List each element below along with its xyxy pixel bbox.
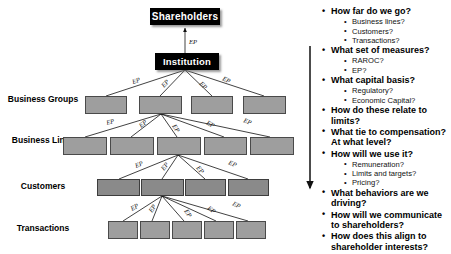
edge-bg-bl-1 [85,114,161,137]
edge-label: EP [128,202,139,212]
edge-label: EP [227,158,238,168]
questions-panel: How far do we go? Business lines? Custom… [300,0,451,254]
node-business-line[interactable] [204,137,247,155]
edge-bg-bl-2 [131,114,161,137]
node-transaction[interactable] [172,221,202,239]
edge-label: EP [242,116,253,126]
node-business-group[interactable] [85,96,127,114]
edge-label: EP [206,204,217,215]
list-item[interactable]: Transactions? [322,36,451,45]
list-item[interactable]: What tie to compensation?At what level? [322,127,451,148]
list-item[interactable]: EP? [322,66,451,75]
row-label-transactions: Transactions [0,223,86,234]
edge-label: EP [183,207,194,218]
edge-label: EP [159,161,170,172]
node-transaction[interactable] [140,221,170,239]
edge-label: EP [159,78,170,89]
list-item[interactable]: How will we communicate to shareholders? [322,210,451,231]
edge-inst-bg-3 [185,70,212,96]
list-item[interactable]: Business lines? [322,17,451,26]
list-item[interactable]: What capital basis? [322,75,451,86]
edge-label: EP [171,122,182,133]
edge-bl-cu-1 [119,155,178,179]
node-customer[interactable] [228,179,269,196]
list-item[interactable]: How will we use it? [322,149,451,160]
list-item[interactable]: Pricing? [322,178,451,187]
list-item[interactable]: What set of measures? [322,45,451,56]
edge-label: EP [205,118,216,129]
list-item[interactable]: Customers? [322,27,451,36]
edge-label: EP [231,199,242,209]
questions-list: How far do we go? Business lines? Custom… [322,6,451,253]
edge-label: EP [198,79,209,90]
node-business-line[interactable] [63,137,107,155]
list-item[interactable]: Limits and targets? [322,169,451,178]
connector-lines: EP EP EP EP EP EP EP EP EP EP EP EP EP E… [0,0,300,254]
node-institution[interactable]: Institution [155,53,219,70]
list-item[interactable]: Remuneration? [322,160,451,169]
edge-label: EP [133,160,144,170]
edge-cu-tr-3 [162,196,184,221]
slide-canvas: EP EP EP EP EP EP EP EP EP EP EP EP EP E… [0,0,451,254]
node-transaction[interactable] [108,221,138,239]
node-customer[interactable] [141,179,184,196]
row-label-text: Transactions [17,223,69,233]
list-item[interactable]: How do these relate to limits? [322,105,451,126]
list-item[interactable]: Economic Capital? [322,96,451,105]
node-business-group[interactable] [191,96,233,114]
node-customer[interactable] [185,179,226,196]
edge-inst-bg-1 [106,70,185,96]
node-customer[interactable] [97,179,140,196]
row-label-text: Customers [21,181,65,191]
node-transaction[interactable] [236,221,266,239]
edge-label: EP [104,117,115,126]
edge-label: EP [137,118,148,129]
list-item[interactable]: How does this align to shareholder inter… [322,231,451,252]
edge-label: EP [195,163,206,174]
node-business-line[interactable] [110,137,154,155]
hierarchy-diagram: EP EP EP EP EP EP EP EP EP EP EP EP EP E… [0,0,300,254]
row-label-customers: Customers [0,181,86,192]
edge-bl-cu-4 [178,155,248,179]
row-label-business-groups: Business Groups [0,94,86,105]
row-label-text: Business Groups [8,94,78,104]
node-business-line[interactable] [157,137,201,155]
node-shareholders[interactable]: Shareholders [150,8,220,25]
node-business-group[interactable] [243,96,286,114]
list-item[interactable]: What behaviors are we driving? [322,188,451,209]
edge-label: EP [221,74,232,84]
node-business-group[interactable] [139,96,182,114]
list-item[interactable]: RAROC? [322,56,451,65]
edge-label: EP [130,76,141,86]
edge-label: EP [188,38,197,45]
node-transaction[interactable] [204,221,234,239]
node-business-line[interactable] [250,137,294,155]
list-item[interactable]: Regulatory? [322,86,451,95]
list-item[interactable]: How far do we go? [322,6,451,17]
